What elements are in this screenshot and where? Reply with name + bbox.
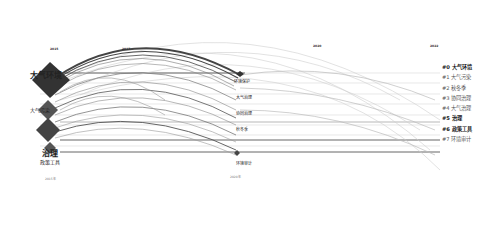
axis-label-left: 2015年 (45, 177, 56, 181)
year-label-0: 2015 (50, 47, 58, 51)
cluster-legend: #0 大气环境 #1 大气污染 #2 秋冬季 #3 协同治理 #4 大气治理 #… (442, 62, 472, 144)
legend-item-6: #6 政策工具 (442, 124, 472, 134)
node-label-left-3: 政策工具 (40, 160, 60, 165)
node-label-mid-4: 环境审计 (236, 162, 252, 166)
node-label-left-0: 大气环境 (30, 72, 62, 80)
right-arcs (240, 71, 435, 155)
node-label-mid-0: 环境保护 (234, 80, 250, 84)
year-label-1: 2017 (122, 47, 130, 51)
node-label-mid-3: 秋冬季 (236, 128, 248, 132)
legend-item-0: #0 大气环境 (442, 62, 472, 72)
short-arcs (55, 48, 240, 155)
node-label-mid-1: 大气治理 (236, 96, 252, 100)
node-label-left-2: 治理 (42, 150, 58, 158)
legend-item-3: #3 协同治理 (442, 93, 472, 103)
node-label-left-1: 大气污染 (30, 108, 50, 113)
legend-item-5: #5 治理 (442, 113, 472, 123)
legend-item-7: #7 环境审计 (442, 134, 472, 144)
legend-item-1: #1 大气污染 (442, 72, 472, 82)
axis-label-mid: 2020年 (230, 175, 241, 179)
legend-item-2: #2 秋冬季 (442, 83, 472, 93)
long-arcs (60, 42, 440, 170)
legend-item-4: #4 大气治理 (442, 103, 472, 113)
year-label-3: 2022 (430, 44, 438, 48)
node-label-mid-2: 协同治理 (236, 112, 252, 116)
year-label-2: 2020 (313, 44, 321, 48)
